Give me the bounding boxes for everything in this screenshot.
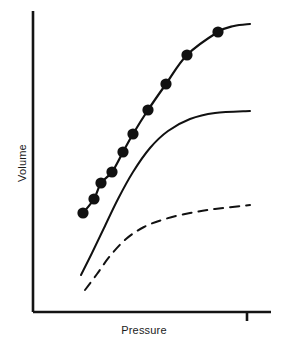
y-axis-label: Volume [16,130,28,196]
series-group [77,24,250,290]
data-point-marker [106,166,117,177]
data-point-marker [117,146,128,157]
upper-curve-with-markers [83,24,250,213]
data-point-marker [77,207,88,218]
x-axis-label: Pressure [0,324,286,336]
upper-curve-data-markers [77,26,223,218]
axes-group [33,11,271,321]
data-point-marker [127,128,138,139]
data-point-marker [181,49,192,60]
data-point-marker [95,177,106,188]
data-point-marker [142,104,153,115]
data-point-marker [212,26,223,37]
data-point-marker [160,78,171,89]
chart-figure: Volume Pressure [0,0,286,349]
middle-curve [81,111,250,275]
plot-area [0,0,286,349]
data-point-marker [88,193,99,204]
